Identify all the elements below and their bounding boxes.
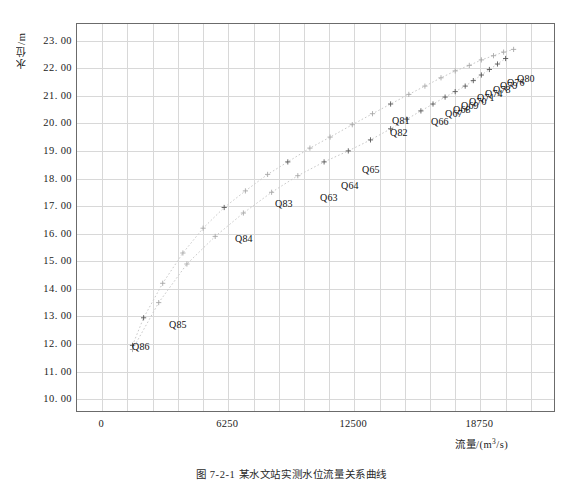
data-point-label: Q82 bbox=[390, 127, 408, 138]
data-point-marker bbox=[422, 84, 427, 89]
data-point-marker bbox=[346, 148, 351, 153]
trend-line bbox=[133, 59, 506, 350]
y-axis-tick-label: 21. 00 bbox=[6, 89, 72, 100]
data-point-marker bbox=[443, 95, 448, 100]
data-point-label: Q83 bbox=[275, 198, 293, 209]
y-axis-tick-label: 14. 00 bbox=[6, 282, 72, 293]
data-point-marker bbox=[388, 101, 393, 106]
series-curve-lower bbox=[130, 56, 508, 352]
y-axis-tick-label: 10. 00 bbox=[6, 393, 72, 404]
data-point-marker bbox=[328, 135, 333, 140]
data-point-marker bbox=[479, 72, 484, 77]
data-point-marker bbox=[491, 53, 496, 58]
data-point-label: Q85 bbox=[169, 319, 187, 330]
data-point-marker bbox=[463, 84, 468, 89]
y-axis-tick-label: 19. 00 bbox=[6, 144, 72, 155]
data-point-marker bbox=[285, 159, 290, 164]
x-axis-tick-labels: 062501250018750 bbox=[76, 418, 555, 434]
data-point-label: Q63 bbox=[320, 192, 338, 203]
y-axis-tick-label: 12. 00 bbox=[6, 338, 72, 349]
data-point-marker bbox=[350, 122, 355, 127]
data-point-marker bbox=[453, 68, 458, 73]
y-axis-tick-label: 22. 00 bbox=[6, 62, 72, 73]
data-point-label: Q84 bbox=[235, 233, 253, 244]
data-point-marker bbox=[438, 75, 443, 80]
data-point-marker bbox=[368, 137, 373, 142]
data-point-marker bbox=[322, 159, 327, 164]
x-axis-title: 流量/(m3/s) bbox=[455, 436, 508, 451]
data-point-marker bbox=[370, 111, 375, 116]
x-axis-tick-label: 0 bbox=[98, 418, 104, 429]
data-point-marker bbox=[307, 146, 312, 151]
data-point-marker bbox=[295, 173, 300, 178]
y-axis-tick-label: 18. 00 bbox=[6, 172, 72, 183]
data-point-label: Q86 bbox=[132, 341, 150, 352]
y-axis-tick-label: 16. 00 bbox=[6, 227, 72, 238]
data-point-marker bbox=[501, 50, 506, 55]
figure-caption: 图 7-2-1 某水文站实测水位流量关系曲线 bbox=[0, 466, 583, 480]
data-point-marker bbox=[453, 89, 458, 94]
data-point-marker bbox=[467, 63, 472, 68]
y-axis-tick-label: 11. 00 bbox=[6, 365, 72, 376]
data-point-marker bbox=[265, 172, 270, 177]
x-axis-tick-label: 6250 bbox=[216, 418, 238, 429]
data-point-label: Q64 bbox=[341, 180, 359, 191]
data-point-label: Q80 bbox=[517, 73, 535, 84]
data-point-label: Q65 bbox=[362, 164, 380, 175]
data-point-marker bbox=[180, 250, 185, 255]
data-curves bbox=[77, 24, 555, 412]
y-axis-tick-label: 17. 00 bbox=[6, 200, 72, 211]
data-point-marker bbox=[160, 281, 165, 286]
data-point-marker bbox=[141, 315, 146, 320]
data-point-marker bbox=[406, 92, 411, 97]
data-point-label: Q81 bbox=[392, 115, 410, 126]
data-point-marker bbox=[418, 108, 423, 113]
data-point-marker bbox=[156, 300, 161, 305]
figure-container: 水位/m 10. 0011. 0012. 0013. 0014. 0015. 0… bbox=[0, 0, 583, 480]
y-axis-tick-label: 15. 00 bbox=[6, 255, 72, 266]
data-point-marker bbox=[479, 57, 484, 62]
plot-area: Q86Q85Q84Q83Q63Q64Q65Q81Q82Q66Q67Q68Q69Q… bbox=[76, 23, 555, 412]
x-axis-tick-label: 18750 bbox=[466, 418, 494, 429]
data-point-marker bbox=[430, 101, 435, 106]
x-axis-tick-label: 12500 bbox=[339, 418, 367, 429]
data-point-marker bbox=[511, 47, 516, 52]
data-point-marker bbox=[201, 226, 206, 231]
data-point-marker bbox=[213, 234, 218, 239]
y-axis-tick-label: 20. 00 bbox=[6, 117, 72, 128]
y-axis-tick-label: 13. 00 bbox=[6, 310, 72, 321]
y-axis-tick-labels: 10. 0011. 0012. 0013. 0014. 0015. 0016. … bbox=[0, 23, 72, 412]
y-axis-tick-label: 23. 00 bbox=[6, 34, 72, 45]
